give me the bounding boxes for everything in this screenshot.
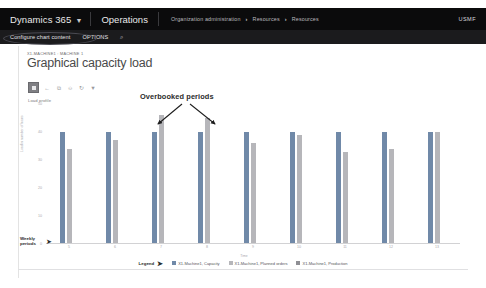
- x-tick-6: 6: [108, 245, 122, 249]
- bar-group: [152, 115, 165, 244]
- legend-item-label: X1-Machine1, Capacity: [178, 261, 219, 266]
- breadcrumb-item-1[interactable]: Resources: [253, 16, 280, 22]
- y-tick-10: 10: [28, 214, 42, 218]
- bar[interactable]: [428, 132, 434, 244]
- breadcrumb-separator-icon-2: ›: [285, 16, 287, 22]
- y-tick-30: 30: [28, 158, 42, 162]
- bar[interactable]: [198, 132, 204, 244]
- bar-group: [428, 132, 441, 244]
- x-tick-5: 5: [62, 245, 76, 249]
- bar-group: [382, 132, 395, 244]
- y-tick-50: 50: [28, 102, 42, 106]
- breadcrumb: Organization administration › Resources …: [171, 16, 319, 22]
- x-tick-11: 11: [338, 245, 352, 249]
- top-navigation-bar: Dynamics 365 ▼ Operations Organization a…: [0, 8, 486, 30]
- weekly-periods-line-1: Weekly: [20, 236, 35, 241]
- bar[interactable]: [336, 132, 342, 244]
- bar-group: [244, 132, 257, 244]
- legend-item-label: X1-Machine1, Production: [302, 261, 347, 266]
- x-axis-line: [46, 243, 460, 244]
- app-screen: Dynamics 365 ▼ Operations Organization a…: [0, 0, 486, 288]
- bar[interactable]: [205, 118, 211, 244]
- breadcrumb-item-0[interactable]: Organization administration: [171, 16, 241, 22]
- zoom-out-icon[interactable]: ←: [44, 84, 51, 92]
- copy-icon[interactable]: ⧉: [55, 84, 62, 92]
- print-icon[interactable]: ⎉: [67, 84, 74, 92]
- x-tick-7: 7: [154, 245, 168, 249]
- brand-menu-button[interactable]: Dynamics 365 ▼: [0, 8, 90, 30]
- x-tick-10: 10: [292, 245, 306, 249]
- bar-group: [198, 118, 211, 244]
- annotation-overbooked-periods: Overbooked periods: [140, 92, 214, 101]
- chevron-down-icon: ▼: [75, 17, 82, 24]
- bar[interactable]: [251, 143, 257, 244]
- page-title: Graphical capacity load: [27, 56, 152, 70]
- configure-chart-content-button[interactable]: Configure chart content: [4, 30, 76, 44]
- annotation-weekly-periods: Weekly periods: [20, 236, 60, 247]
- options-tab[interactable]: OPTIONS: [76, 30, 114, 44]
- breadcrumb-item-2[interactable]: Resources: [292, 16, 319, 22]
- legend-item[interactable]: X1-Machine1, Capacity: [172, 261, 219, 266]
- legend-items: X1-Machine1, CapacityX1-Machine1, Planne…: [172, 261, 347, 266]
- bar[interactable]: [435, 132, 441, 244]
- chart-toolbar: ← ⧉ ⎉ ↻ ▼: [28, 82, 97, 93]
- x-tick-8: 8: [200, 245, 214, 249]
- nav-divider-2: [158, 12, 159, 26]
- bar[interactable]: [297, 135, 303, 244]
- bar[interactable]: [67, 149, 73, 244]
- legend-item[interactable]: X1-Machine1, Production: [296, 261, 347, 266]
- bar-group: [336, 132, 349, 244]
- brand-label: Dynamics 365: [10, 14, 71, 25]
- chart-select-button[interactable]: [28, 82, 39, 93]
- breadcrumb-separator-icon: ›: [246, 16, 248, 22]
- legend-swatch-icon: [296, 261, 300, 265]
- y-axis-title: Load in number of hours: [20, 115, 24, 152]
- select-glyph-icon: [32, 86, 36, 90]
- company-label: USMF: [459, 8, 476, 30]
- x-tick-13: 13: [430, 245, 444, 249]
- bar[interactable]: [244, 132, 250, 244]
- refresh-icon[interactable]: ↻: [78, 84, 85, 92]
- module-label: Operations: [91, 8, 157, 30]
- bar-group: [60, 132, 73, 244]
- bar[interactable]: [159, 115, 165, 244]
- bar[interactable]: [382, 132, 388, 244]
- bar[interactable]: [106, 132, 112, 244]
- legend-swatch-icon: [172, 261, 176, 265]
- search-icon[interactable]: ⌕: [114, 34, 129, 41]
- page-content: X1-MACHINE1 : MACHINE 1 Graphical capaci…: [18, 46, 469, 278]
- bar[interactable]: [60, 132, 66, 244]
- x-tick-9: 9: [246, 245, 260, 249]
- y-tick-40: 40: [28, 130, 42, 134]
- legend-arrow-icon: ➤: [157, 260, 163, 267]
- bar-group: [106, 132, 119, 244]
- legend-divider: [18, 269, 468, 270]
- plot-area: [46, 104, 460, 244]
- y-tick-20: 20: [28, 186, 42, 190]
- weekly-periods-line-2: periods: [20, 241, 36, 246]
- legend-item-label: X1-Machine1, Planned orders: [235, 261, 288, 266]
- filter-icon[interactable]: ▼: [90, 84, 97, 92]
- legend-annotation-label: Legend ➤: [139, 260, 164, 267]
- chart-legend: Legend ➤ X1-Machine1, CapacityX1-Machine…: [0, 257, 486, 269]
- bar[interactable]: [343, 152, 349, 244]
- bar[interactable]: [152, 132, 158, 244]
- bar[interactable]: [113, 140, 119, 244]
- bar-group: [290, 132, 303, 244]
- bar[interactable]: [389, 149, 395, 244]
- action-pane: Configure chart content OPTIONS ⌕: [0, 30, 486, 44]
- legend-label-text: Legend: [139, 261, 155, 266]
- capacity-load-chart: Load in number of hours 50403020100 5678…: [28, 104, 460, 244]
- legend-swatch-icon: [229, 261, 233, 265]
- x-tick-12: 12: [384, 245, 398, 249]
- bar[interactable]: [290, 132, 296, 244]
- legend-item[interactable]: X1-Machine1, Planned orders: [229, 261, 288, 266]
- weekly-periods-arrow-icon: ➤: [46, 238, 52, 245]
